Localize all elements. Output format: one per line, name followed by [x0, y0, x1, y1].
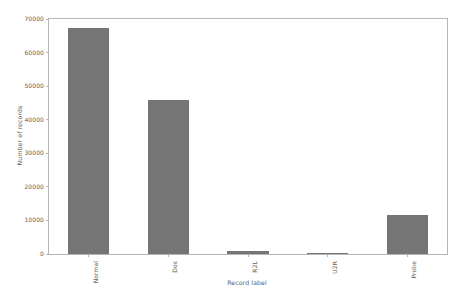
y-axis-tick-mark	[46, 186, 49, 187]
x-axis-tick-mark	[248, 254, 249, 257]
y-axis-tick-mark	[46, 254, 49, 255]
y-axis-tick-mark	[46, 119, 49, 120]
y-axis-tick-label: 40000	[24, 117, 44, 123]
x-axis-tick-mark	[88, 254, 89, 257]
x-axis-tick-label: Probe	[410, 261, 417, 279]
x-axis-tick-mark	[168, 254, 169, 257]
y-axis-tick-mark	[46, 220, 49, 221]
y-axis-tick-label: 10000	[24, 217, 44, 223]
bar	[307, 253, 348, 254]
y-axis-tick-mark	[46, 52, 49, 53]
bar	[148, 100, 189, 254]
y-axis-tick-label: 20000	[24, 184, 44, 190]
y-axis-title: Number of records	[14, 0, 26, 270]
y-axis-tick-mark	[46, 19, 49, 20]
bar	[68, 28, 109, 254]
plot-area: 010000200003000040000500006000070000 Nor…	[48, 18, 448, 255]
bar-chart-figure: Number of records 0100002000030000400005…	[0, 0, 464, 297]
x-axis-tick-label: Dos	[171, 261, 178, 273]
y-axis-tick-mark	[46, 153, 49, 154]
y-axis-tick-label: 70000	[24, 16, 44, 22]
x-axis-tick-mark	[407, 254, 408, 257]
y-axis-tick-mark	[46, 86, 49, 87]
y-axis-title-text: Number of records	[17, 105, 24, 165]
bar	[227, 251, 268, 254]
y-axis-tick-label: 0	[40, 251, 44, 257]
x-axis-tick-label: R2L	[251, 261, 258, 273]
x-axis-title: Record label	[45, 279, 449, 286]
y-axis-tick-label: 50000	[24, 83, 44, 89]
bar	[387, 215, 428, 254]
y-axis-tick-label: 60000	[24, 50, 44, 56]
y-axis-tick-label: 30000	[24, 150, 44, 156]
x-axis-tick-mark	[327, 254, 328, 257]
x-axis-tick-label: U2R	[331, 261, 338, 274]
